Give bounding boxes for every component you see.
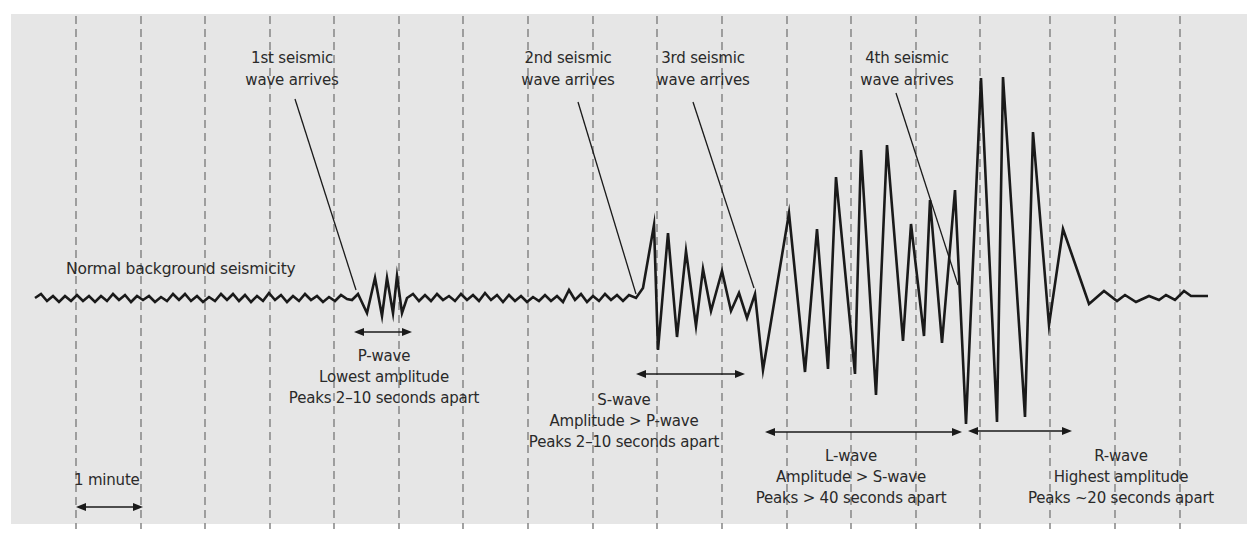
fourth-wave-arrival-label: 4th seismic wave arrives	[847, 47, 967, 91]
l-wave-name: L-wave	[731, 446, 971, 467]
second-arrival-line2: wave arrives	[508, 69, 628, 91]
third-wave-arrival-label: 3rd seismic wave arrives	[643, 47, 763, 91]
third-arrival-line1: 3rd seismic	[643, 47, 763, 69]
p-wave-amplitude: Lowest amplitude	[264, 367, 504, 388]
fourth-arrival-line2: wave arrives	[847, 69, 967, 91]
first-arrival-line2: wave arrives	[232, 69, 352, 91]
first-wave-arrival-label: 1st seismic wave arrives	[232, 47, 352, 91]
background-seismicity-label: Normal background seismicity	[66, 260, 296, 279]
s-wave-description: S-wave Amplitude > P-wave Peaks 2–10 sec…	[504, 390, 744, 453]
time-scale-label: 1 minute	[74, 471, 140, 490]
r-wave-amplitude: Highest amplitude	[1001, 467, 1241, 488]
l-wave-peaks: Peaks > 40 seconds apart	[731, 488, 971, 509]
s-wave-amplitude: Amplitude > P-wave	[504, 411, 744, 432]
third-arrival-line2: wave arrives	[643, 69, 763, 91]
s-wave-peaks: Peaks 2–10 seconds apart	[504, 432, 744, 453]
p-wave-description: P-wave Lowest amplitude Peaks 2–10 secon…	[264, 346, 504, 409]
first-arrival-line1: 1st seismic	[232, 47, 352, 69]
seismogram-diagram: Normal background seismicity 1st seismic…	[0, 0, 1254, 549]
l-wave-description: L-wave Amplitude > S-wave Peaks > 40 sec…	[731, 446, 971, 509]
p-wave-name: P-wave	[264, 346, 504, 367]
arrival-leader-line	[578, 102, 636, 294]
l-wave-amplitude: Amplitude > S-wave	[731, 467, 971, 488]
fourth-arrival-line1: 4th seismic	[847, 47, 967, 69]
r-wave-peaks: Peaks ~20 seconds apart	[1001, 488, 1241, 509]
r-wave-description: R-wave Highest amplitude Peaks ~20 secon…	[1001, 446, 1241, 509]
s-wave-name: S-wave	[504, 390, 744, 411]
r-wave-name: R-wave	[1001, 446, 1241, 467]
arrival-leader-line	[295, 99, 356, 290]
arrival-leader-line	[693, 102, 754, 288]
second-arrival-line1: 2nd seismic	[508, 47, 628, 69]
p-wave-peaks: Peaks 2–10 seconds apart	[264, 388, 504, 409]
arrival-leader-line	[896, 93, 958, 285]
second-wave-arrival-label: 2nd seismic wave arrives	[508, 47, 628, 91]
